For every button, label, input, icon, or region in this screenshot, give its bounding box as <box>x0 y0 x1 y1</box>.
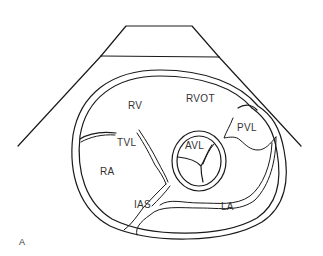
sector-left-edge <box>18 56 101 146</box>
panel-label: A <box>19 237 25 247</box>
label-la: LA <box>221 201 234 212</box>
label-rv: RV <box>128 100 142 111</box>
la-anterior-wall-a <box>137 137 276 235</box>
label-rvot: RVOT <box>186 93 215 104</box>
label-avl: AVL <box>185 140 204 151</box>
label-ias: IAS <box>134 199 151 210</box>
label-pvl: PVL <box>237 122 257 133</box>
septum-line-b <box>139 130 168 182</box>
transducer-head <box>101 26 219 57</box>
la-anterior-wall-b <box>160 143 272 205</box>
septum-line-a <box>137 133 166 184</box>
echo-short-axis-diagram: RV RVOT PVL TVL AVL RA IAS LA A <box>0 0 323 256</box>
transducer-sector <box>18 26 301 146</box>
label-tvl: TVL <box>117 137 136 148</box>
label-ra: RA <box>100 166 115 177</box>
transducer-crossbar <box>101 56 219 57</box>
sector-right-edge <box>219 57 301 146</box>
